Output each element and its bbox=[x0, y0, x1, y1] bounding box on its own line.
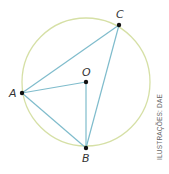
segment-ab bbox=[22, 93, 86, 148]
segment-ao bbox=[22, 82, 86, 93]
geometry-diagram: C O A B ILUSTRAÇÕES: DAE bbox=[0, 0, 169, 174]
segment-ac bbox=[22, 25, 119, 93]
label-o: O bbox=[82, 66, 91, 79]
illustration-credit: ILUSTRAÇÕES: DAE bbox=[155, 93, 164, 160]
label-a: A bbox=[8, 87, 17, 100]
point-o bbox=[84, 80, 88, 84]
point-b bbox=[84, 146, 88, 150]
label-c: C bbox=[116, 8, 124, 21]
point-a bbox=[20, 91, 24, 95]
label-b: B bbox=[82, 152, 90, 165]
point-c bbox=[117, 23, 121, 27]
segment-cb bbox=[86, 25, 119, 148]
